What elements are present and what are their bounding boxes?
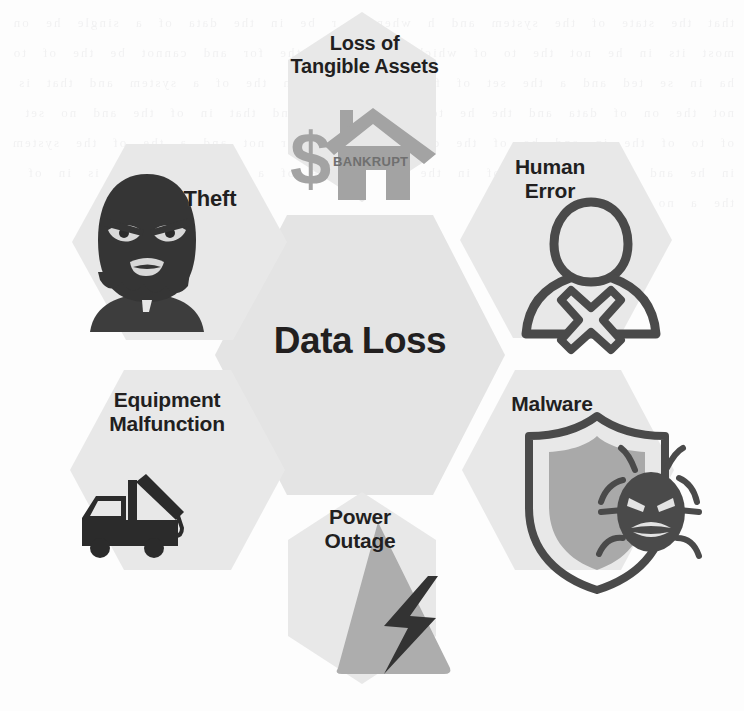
svg-text:$: $ bbox=[290, 117, 331, 200]
center-label: Data Loss bbox=[215, 320, 505, 363]
house-bankrupt-dollar-icon: $ BANKRUPT bbox=[288, 108, 440, 200]
label-theft: Theft bbox=[150, 186, 270, 212]
data-loss-hexagon-diagram: that the state of the system and h when … bbox=[0, 0, 744, 711]
person-with-x-icon bbox=[518, 196, 664, 340]
label-power-outage: Power Outage bbox=[290, 505, 430, 554]
svg-text:BANKRUPT: BANKRUPT bbox=[333, 154, 408, 169]
tow-truck-icon bbox=[78, 472, 216, 562]
label-loss-of-tangible-assets: Loss of Tangible Assets bbox=[262, 32, 467, 78]
shield-with-bug-icon bbox=[519, 412, 697, 594]
label-equipment-malfunction: Equipment Malfunction bbox=[72, 388, 262, 437]
label-human-error: Human Error bbox=[490, 155, 610, 204]
label-malware: Malware bbox=[487, 392, 617, 416]
